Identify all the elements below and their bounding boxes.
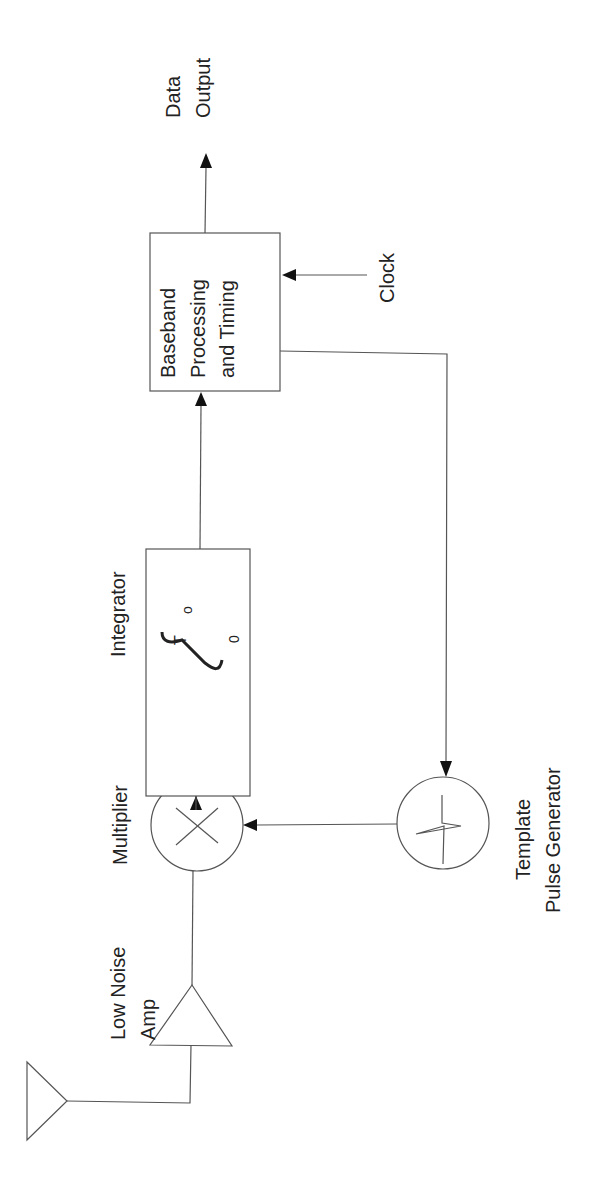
antenna-icon xyxy=(27,1062,67,1140)
integral-lower-limit: 0 xyxy=(226,635,242,643)
baseband-label-line1: Baseband xyxy=(157,288,179,378)
arrowhead-template-input xyxy=(440,761,452,777)
baseband-label-line2: Processing xyxy=(187,279,209,378)
baseband-label-line3: and Timing xyxy=(216,280,238,378)
wire-template-to-multiplier xyxy=(257,824,397,825)
clock-label: Clock xyxy=(376,252,398,303)
receiver-block-diagram: Low Noise Amp Multiplier T o 0 Integrato… xyxy=(0,0,605,1186)
wire-lna-to-multiplier xyxy=(192,871,193,985)
arrowhead-multiplier-reference xyxy=(243,819,257,831)
arrowhead-baseband-input xyxy=(195,392,207,406)
template-label-line2: Pulse Generator xyxy=(542,767,564,913)
arrowhead-data-output xyxy=(200,153,212,168)
data-output-label-line1: Data xyxy=(162,75,184,118)
integral-upper-limit: T xyxy=(172,635,189,645)
low-noise-amp-block xyxy=(150,985,232,1046)
wire-antenna-to-lna xyxy=(67,1045,191,1103)
integral-upper-limit-sub: o xyxy=(179,606,195,614)
arrowhead-clock xyxy=(282,269,296,281)
wire-integrator-to-baseband xyxy=(200,406,201,549)
integrator-block xyxy=(146,549,250,796)
multiplier-label: Multiplier xyxy=(109,785,131,865)
template-pulse-generator-block xyxy=(397,777,489,869)
data-output-label-line2: Output xyxy=(192,58,214,118)
template-label-line1: Template xyxy=(512,799,534,880)
lna-label-line2: Amp xyxy=(137,999,159,1040)
lna-label-line1: Low Noise xyxy=(107,947,129,1040)
integrator-label: Integrator xyxy=(107,571,129,657)
wire-data-output xyxy=(205,168,206,233)
wire-baseband-to-template xyxy=(280,351,447,761)
